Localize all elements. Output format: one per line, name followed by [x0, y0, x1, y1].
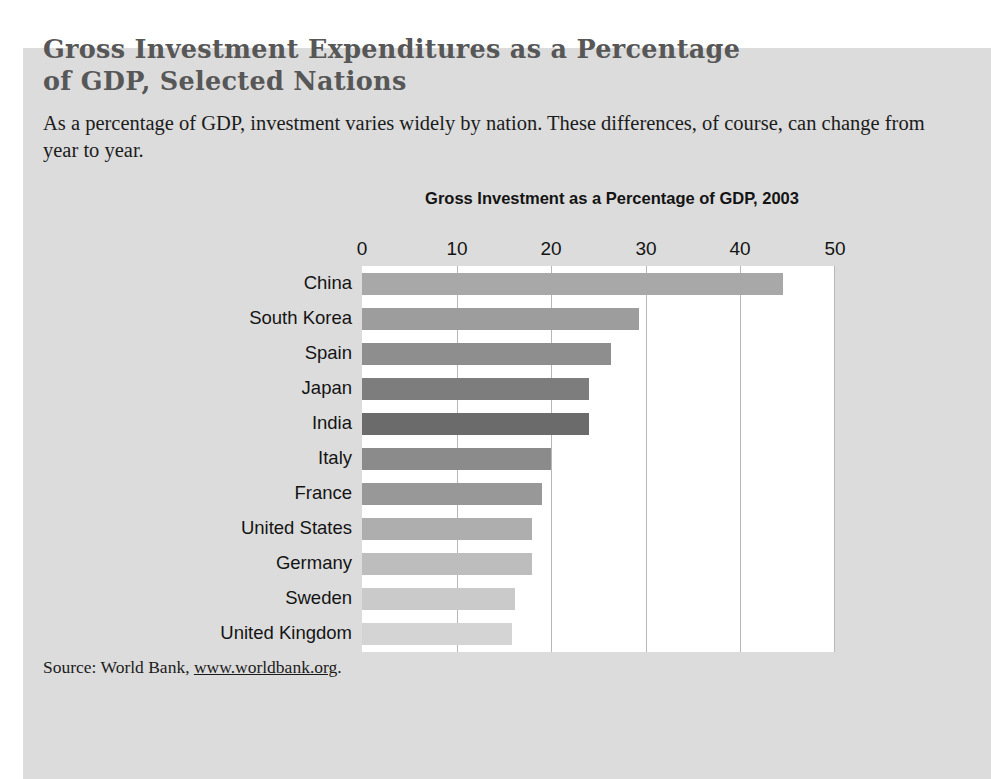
x-tick-label: 50 [824, 238, 845, 260]
x-tick-label: 40 [729, 238, 750, 260]
figure-title: Gross Investment Expenditures as a Perce… [43, 33, 743, 97]
plot-area [362, 266, 835, 652]
x-tick-label: 30 [635, 238, 656, 260]
bar [362, 483, 542, 505]
source-prefix: Source: World Bank, [43, 657, 194, 677]
category-label: Sweden [110, 587, 352, 609]
figure-subtitle: As a percentage of GDP, investment varie… [43, 110, 948, 164]
category-label: Japan [110, 377, 352, 399]
category-label: Germany [110, 552, 352, 574]
bar [362, 343, 611, 365]
bar [362, 553, 532, 575]
source-note: Source: World Bank, www.worldbank.org. [43, 657, 342, 678]
bar [362, 623, 512, 645]
category-label: United Kingdom [110, 622, 352, 644]
x-tick-label: 20 [540, 238, 561, 260]
chart-title: Gross Investment as a Percentage of GDP,… [362, 188, 862, 209]
category-axis-labels: ChinaSouth KoreaSpainJapanIndiaItalyFran… [110, 266, 352, 652]
gridline-30 [646, 266, 647, 652]
x-tick-label: 10 [446, 238, 467, 260]
category-label: United States [110, 517, 352, 539]
category-label: Spain [110, 342, 352, 364]
bar [362, 308, 639, 330]
bar [362, 588, 515, 610]
category-label: Italy [110, 447, 352, 469]
bar [362, 413, 589, 435]
bar [362, 448, 551, 470]
bar [362, 378, 589, 400]
source-link[interactable]: www.worldbank.org [194, 657, 337, 677]
gridline-40 [740, 266, 741, 652]
bar [362, 518, 532, 540]
source-suffix: . [337, 657, 341, 677]
bar [362, 273, 783, 295]
x-tick-label: 0 [357, 238, 368, 260]
gridline-50 [834, 266, 835, 652]
category-label: South Korea [110, 307, 352, 329]
x-axis-tick-labels: 01020304050 [362, 238, 835, 264]
category-label: France [110, 482, 352, 504]
category-label: India [110, 412, 352, 434]
category-label: China [110, 272, 352, 294]
